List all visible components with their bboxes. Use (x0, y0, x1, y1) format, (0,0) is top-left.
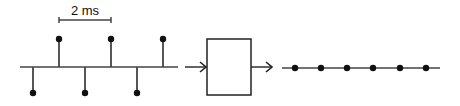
output-sample-dot (344, 65, 350, 71)
output-sample-dot (318, 65, 324, 71)
output-sample-dot (370, 65, 376, 71)
sample-dot (160, 36, 166, 42)
sample-dot (134, 90, 140, 96)
processing-block (207, 39, 251, 95)
output-sample-dot (292, 65, 298, 71)
signal-processing-diagram: 2 ms (0, 0, 460, 106)
input-sample-train (20, 36, 178, 96)
output-sample-dot (397, 65, 403, 71)
output-sample-dot (423, 65, 429, 71)
sample-dot (82, 90, 88, 96)
output-sample-train (282, 65, 440, 71)
sample-dot (108, 36, 114, 42)
sample-dot (56, 36, 62, 42)
sample-dot (30, 90, 36, 96)
scale-bar-label: 2 ms (71, 3, 100, 18)
